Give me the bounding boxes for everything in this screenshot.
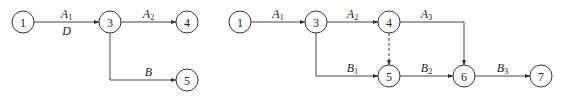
edge-label: A2 — [346, 7, 358, 22]
node-label: 3 — [313, 16, 319, 30]
node-label: 4 — [386, 16, 392, 30]
edge-left-3-5 — [110, 33, 176, 80]
edge-right-4-6 — [400, 22, 464, 65]
node-right-5: 5 — [378, 65, 400, 87]
node-label: 1 — [20, 16, 26, 30]
network-diagrams: 1345134567 A1DA2BA1A2A3B1B2B3 — [0, 0, 564, 96]
node-label: 6 — [461, 70, 467, 84]
node-label: 1 — [237, 16, 243, 30]
node-label: 4 — [184, 16, 190, 30]
node-right-3: 3 — [305, 11, 327, 33]
node-right-1: 1 — [229, 11, 251, 33]
node-left-5: 5 — [176, 69, 198, 91]
node-left-1: 1 — [12, 11, 34, 33]
node-left-4: 4 — [176, 11, 198, 33]
edge-label-secondary: D — [61, 24, 71, 38]
edge-label: B3 — [497, 61, 508, 76]
node-right-6: 6 — [453, 65, 475, 87]
edge-label: A2 — [142, 7, 154, 22]
node-label: 7 — [538, 70, 544, 84]
node-right-7: 7 — [530, 65, 552, 87]
edge-label: B1 — [347, 61, 358, 76]
node-label: 5 — [184, 74, 190, 88]
edge-label: B2 — [421, 61, 432, 76]
edge-label: A1 — [271, 7, 283, 22]
node-label: 5 — [386, 70, 392, 84]
edge-label: A3 — [420, 7, 432, 22]
edge-label: A1 — [60, 7, 72, 22]
node-label: 3 — [107, 16, 113, 30]
node-left-3: 3 — [99, 11, 121, 33]
node-right-4: 4 — [378, 11, 400, 33]
edge-label: B — [145, 65, 153, 79]
